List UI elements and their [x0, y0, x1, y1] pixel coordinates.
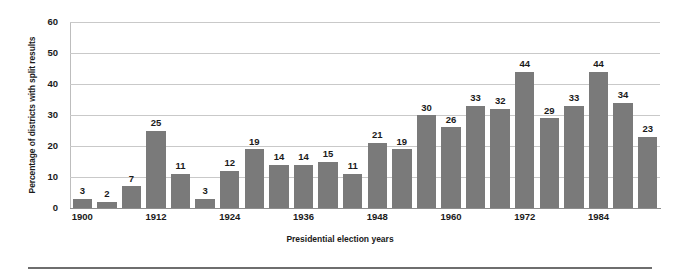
x-axis-tick-label: 1984 — [569, 211, 629, 223]
bar-slot: 19 — [242, 22, 267, 208]
bar — [466, 106, 485, 208]
bar — [73, 199, 92, 208]
bar-value-label: 34 — [611, 90, 636, 100]
x-axis-tick-label: 1900 — [52, 211, 112, 223]
bar — [269, 165, 288, 208]
bar-slot: 34 — [611, 22, 636, 208]
bar — [392, 149, 411, 208]
bar-value-label: 33 — [463, 93, 488, 103]
bar-slot: 11 — [168, 22, 193, 208]
bar-slot: 19 — [390, 22, 415, 208]
bar-value-label: 7 — [119, 174, 144, 184]
y-axis-tick-label: 10 — [18, 172, 58, 182]
bar-value-label: 3 — [193, 186, 218, 196]
bar — [122, 186, 141, 208]
bar-series: 3272511312191414151121193026333244293344… — [70, 22, 660, 208]
bar — [220, 171, 239, 208]
bar-value-label: 44 — [586, 59, 611, 69]
bar — [245, 149, 264, 208]
bar-slot: 33 — [562, 22, 587, 208]
bar-slot: 11 — [340, 22, 365, 208]
bar — [441, 127, 460, 208]
bar-slot: 12 — [218, 22, 243, 208]
bar — [417, 115, 436, 208]
bar-slot: 3 — [193, 22, 218, 208]
bar-slot: 25 — [144, 22, 169, 208]
bar-value-label: 15 — [316, 149, 341, 159]
x-axis-tick-label: 1972 — [495, 211, 555, 223]
bar-value-label: 14 — [291, 152, 316, 162]
bar-value-label: 19 — [390, 137, 415, 147]
bar-value-label: 29 — [537, 106, 562, 116]
bar — [638, 137, 657, 208]
x-axis-tick-label: 1912 — [126, 211, 186, 223]
bar-slot: 14 — [291, 22, 316, 208]
bar-value-label: 26 — [439, 115, 464, 125]
bar-slot: 32 — [488, 22, 513, 208]
bar — [318, 162, 337, 209]
x-axis-tick-label: 1960 — [421, 211, 481, 223]
bar-value-label: 44 — [513, 59, 538, 69]
bar — [171, 174, 190, 208]
bar-slot: 2 — [95, 22, 120, 208]
bar-slot: 15 — [316, 22, 341, 208]
bar-slot: 21 — [365, 22, 390, 208]
bar-value-label: 2 — [95, 189, 120, 199]
bar — [613, 103, 632, 208]
bar — [146, 131, 165, 209]
bar-slot: 33 — [463, 22, 488, 208]
bar-value-label: 33 — [562, 93, 587, 103]
bar — [195, 199, 214, 208]
bar-chart-figure: Percentage of districts with split resul… — [0, 0, 680, 276]
x-axis-line — [70, 208, 661, 209]
y-axis-tick-label: 50 — [18, 48, 58, 58]
bar-slot: 26 — [439, 22, 464, 208]
bar-slot: 3 — [70, 22, 95, 208]
x-axis-tick-labels: 19001912192419361948196019721984 — [70, 211, 660, 227]
bar-slot: 7 — [119, 22, 144, 208]
bar-value-label: 3 — [70, 186, 95, 196]
bar — [294, 165, 313, 208]
bar — [368, 143, 387, 208]
bar — [564, 106, 583, 208]
bar-value-label: 30 — [414, 103, 439, 113]
bar-value-label: 11 — [340, 161, 365, 171]
plot-area: 0102030405060 32725113121914141511211930… — [70, 22, 660, 208]
x-axis-tick-label: 1936 — [274, 211, 334, 223]
y-axis-tick-label: 30 — [18, 110, 58, 120]
y-axis-tick-label: 40 — [18, 79, 58, 89]
bar-slot: 30 — [414, 22, 439, 208]
y-axis-tick-label: 60 — [18, 17, 58, 27]
bar-value-label: 12 — [218, 158, 243, 168]
bar-slot: 44 — [513, 22, 538, 208]
bar-slot: 14 — [267, 22, 292, 208]
bar-slot: 44 — [586, 22, 611, 208]
x-axis-tick-label: 1948 — [347, 211, 407, 223]
x-axis-tick-label: 1924 — [200, 211, 260, 223]
bar — [515, 72, 534, 208]
bar-value-label: 21 — [365, 130, 390, 140]
bar-value-label: 32 — [488, 96, 513, 106]
bar — [540, 118, 559, 208]
y-axis-tick-label: 20 — [18, 141, 58, 151]
bar-slot: 29 — [537, 22, 562, 208]
bar-value-label: 23 — [635, 124, 660, 134]
x-axis-title: Presidential election years — [0, 234, 680, 244]
footer-divider — [28, 267, 652, 269]
bar-value-label: 19 — [242, 137, 267, 147]
bar — [343, 174, 362, 208]
bar-value-label: 11 — [168, 161, 193, 171]
bar-value-label: 25 — [144, 118, 169, 128]
bar — [589, 72, 608, 208]
bar-value-label: 14 — [267, 152, 292, 162]
bar-slot: 23 — [635, 22, 660, 208]
bar — [490, 109, 509, 208]
